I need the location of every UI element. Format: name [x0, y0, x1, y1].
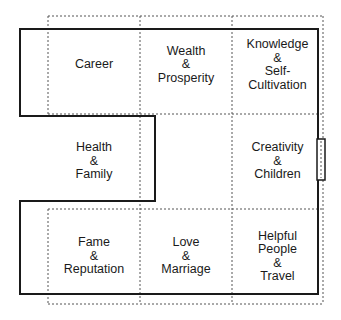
area-health-line-2: &	[90, 155, 98, 169]
area-health: Health & Family	[48, 114, 140, 209]
area-fame-line-1: Fame	[78, 236, 110, 250]
area-knowledge: Knowledge & Self- Cultivation	[232, 16, 323, 114]
area-fame-line-3: Reputation	[64, 263, 124, 277]
area-creativity: Creativity & Children	[232, 114, 323, 209]
area-helpful-line-4: Travel	[260, 270, 294, 284]
area-health-line-3: Family	[76, 168, 113, 182]
area-fame-line-2: &	[90, 250, 98, 264]
area-helpful-line-1: Helpful	[258, 230, 297, 244]
area-wealth-line-3: Prosperity	[158, 72, 214, 86]
area-love-line-1: Love	[172, 236, 199, 250]
area-creativity-line-3: Children	[254, 168, 301, 182]
area-helpful: Helpful People & Travel	[232, 209, 323, 304]
area-love: Love & Marriage	[140, 209, 232, 304]
area-creativity-line-2: &	[273, 155, 281, 169]
area-love-line-3: Marriage	[161, 263, 210, 277]
area-love-line-2: &	[182, 250, 190, 264]
area-wealth-line-2: &	[182, 58, 190, 72]
area-career: Career	[48, 16, 140, 114]
area-knowledge-line-3: Self-	[265, 65, 291, 79]
area-helpful-line-3: &	[273, 257, 281, 271]
area-creativity-line-1: Creativity	[251, 141, 303, 155]
area-knowledge-line-2: &	[273, 52, 281, 66]
area-knowledge-line-1: Knowledge	[247, 38, 309, 52]
area-helpful-line-2: People	[258, 243, 297, 257]
area-wealth-line-1: Wealth	[167, 45, 206, 59]
area-wealth: Wealth & Prosperity	[140, 16, 232, 114]
area-fame: Fame & Reputation	[48, 209, 140, 304]
area-career-line-1: Career	[75, 58, 113, 72]
area-knowledge-line-4: Cultivation	[248, 79, 306, 93]
area-health-line-1: Health	[76, 141, 112, 155]
